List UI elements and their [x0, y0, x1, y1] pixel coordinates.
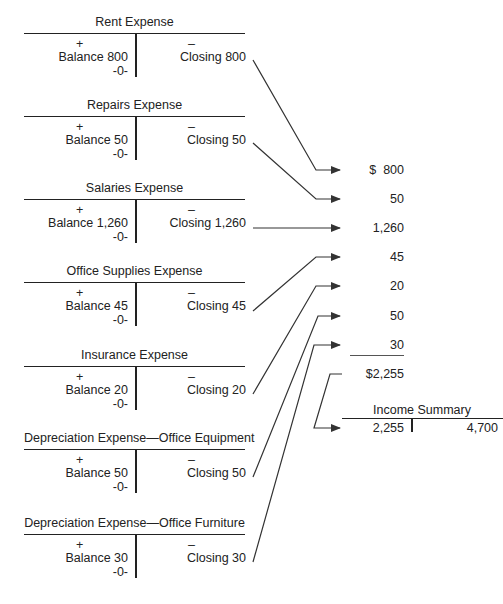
arrow-total-to-income-summary — [314, 374, 342, 428]
closing-flow-arrows — [0, 0, 503, 604]
arrow-insurance — [253, 286, 340, 394]
arrow-office-supplies — [253, 257, 340, 311]
arrow-dep-furniture — [253, 345, 340, 562]
arrow-repairs — [253, 143, 340, 199]
arrow-dep-equipment — [253, 316, 340, 477]
arrow-rent — [253, 60, 340, 170]
